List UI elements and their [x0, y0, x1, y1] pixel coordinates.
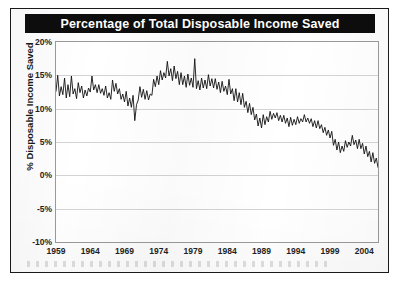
x-tick-label: 1984	[218, 246, 237, 256]
y-tick-label: 0%	[40, 170, 52, 180]
chart-frame: Percentage of Total Disposable Income Sa…	[10, 8, 389, 273]
y-tick-label: 15%	[35, 70, 52, 80]
page-title: Percentage of Total Disposable Income Sa…	[60, 17, 339, 31]
x-tick-label: 1964	[81, 246, 100, 256]
x-tick-label: 1969	[115, 246, 134, 256]
y-tick-label: 20%	[35, 37, 52, 47]
x-tick-label: 1994	[286, 246, 305, 256]
y-axis-title: % Disposable Income Saved	[24, 27, 35, 187]
chart-title-bar: Percentage of Total Disposable Income Sa…	[25, 14, 375, 33]
x-tick-label: 1999	[321, 246, 340, 256]
x-tick-label: 1979	[184, 246, 203, 256]
plot-area: 20%15%10%5%0%-5%-10% 1959196419691974197…	[55, 41, 379, 243]
x-tick-label: 1989	[252, 246, 271, 256]
x-tick-label: 2004	[355, 246, 374, 256]
y-tick-label: 5%	[40, 137, 52, 147]
y-tick-label: -5%	[37, 204, 52, 214]
x-tick-label: 1959	[47, 246, 66, 256]
y-tick-label: 10%	[35, 104, 52, 114]
scan-artifact-strip	[27, 261, 327, 267]
series-line-saving-rate	[56, 42, 378, 242]
x-tick-label: 1974	[149, 246, 168, 256]
